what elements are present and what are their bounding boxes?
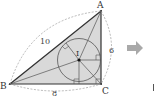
- side-bc-length: 8: [52, 89, 57, 97]
- vertex-b-label: B: [0, 81, 7, 91]
- vertex-c-label: C: [102, 86, 109, 96]
- trailing-bar-mark: [153, 84, 154, 91]
- right-arrow-icon: [127, 41, 143, 55]
- side-ac-length: 6: [109, 46, 114, 55]
- incircle-diagram: A B C I 10 6 8: [0, 0, 155, 97]
- incenter-label: I: [76, 49, 79, 58]
- vertex-a-label: A: [96, 0, 104, 10]
- triangle-abc: [10, 11, 101, 84]
- side-ab-length: 10: [40, 37, 50, 46]
- incenter-point: [77, 58, 80, 61]
